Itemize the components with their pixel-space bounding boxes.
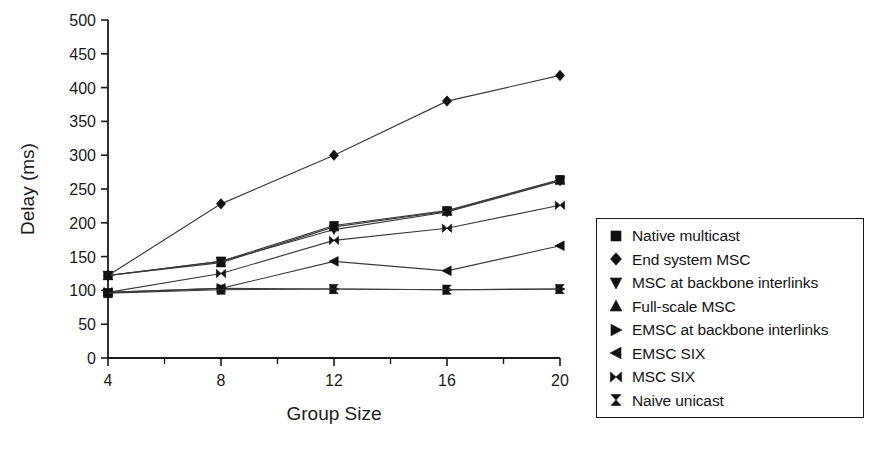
series-line	[108, 75, 560, 275]
x-axis-tick-label: 12	[325, 372, 343, 389]
data-point-marker-triangle-left	[442, 266, 451, 276]
triangle-left-marker-icon	[607, 344, 625, 362]
data-point-marker-bowtie	[442, 224, 451, 232]
diamond-marker-icon	[607, 250, 625, 268]
data-point-marker-bowtie	[216, 269, 225, 277]
chart-plot-area: 050100150200250300350400450500 48121620 …	[0, 0, 600, 458]
legend-item: MSC at backbone interlinks	[597, 271, 863, 295]
delay-vs-group-size-line-chart: 050100150200250300350400450500 48121620 …	[0, 0, 600, 458]
legend-item: MSC SIX	[597, 365, 863, 389]
x-axis-title: Group Size	[286, 403, 381, 424]
x-axis-tick-label: 20	[551, 372, 569, 389]
series-line	[108, 205, 560, 292]
triangle-down-marker-icon	[607, 274, 625, 292]
y-axis-tick-label: 150	[69, 249, 96, 266]
y-axis-tick-label: 350	[69, 113, 96, 130]
chart-screenshot: 050100150200250300350400450500 48121620 …	[0, 0, 877, 458]
y-axis-tick-label: 50	[78, 316, 96, 333]
data-point-marker-triangle-left	[555, 241, 564, 251]
data-point-marker-diamond	[329, 150, 338, 161]
y-axis-tick-label: 300	[69, 147, 96, 164]
legend-item-label: End system MSC	[632, 251, 750, 268]
y-axis-tick-label: 450	[69, 46, 96, 63]
legend-item-label: MSC at backbone interlinks	[632, 274, 818, 291]
legend-item-label: EMSC at backbone interlinks	[632, 321, 828, 338]
bowtie-marker-icon	[607, 368, 625, 386]
data-point-marker-diamond	[442, 96, 451, 107]
triangle-up-marker-icon	[607, 297, 625, 315]
legend-item: Full-scale MSC	[597, 295, 863, 319]
square-marker-icon	[607, 227, 625, 245]
legend-item: Naive unicast	[597, 389, 863, 413]
y-axis-tick-label: 0	[87, 350, 96, 367]
data-point-marker-diamond	[216, 199, 225, 210]
legend-item-label: MSC SIX	[632, 368, 695, 385]
series-msc-six	[103, 201, 564, 297]
legend-item-label: Native multicast	[632, 227, 740, 244]
data-point-marker-bowtie	[329, 236, 338, 244]
y-axis: 050100150200250300350400450500	[69, 12, 108, 367]
y-axis-title: Delay (ms)	[17, 143, 38, 235]
data-point-marker-triangle-left	[329, 257, 338, 267]
series-end-system-msc	[103, 70, 564, 281]
triangle-right-marker-icon	[607, 321, 625, 339]
legend-item: Native multicast	[597, 224, 863, 248]
y-axis-tick-label: 200	[69, 215, 96, 232]
y-axis-tick-label: 100	[69, 282, 96, 299]
hourglass-marker-icon	[607, 391, 625, 409]
legend-item-label: Full-scale MSC	[632, 298, 736, 315]
y-axis-tick-label: 400	[69, 80, 96, 97]
legend-item: End system MSC	[597, 248, 863, 272]
series-naive-unicast	[104, 284, 564, 297]
y-axis-tick-label: 500	[69, 12, 96, 29]
x-axis: 48121620	[104, 358, 569, 389]
legend-item-label: EMSC SIX	[632, 345, 705, 362]
x-axis-tick-label: 8	[217, 372, 226, 389]
legend-item: EMSC SIX	[597, 342, 863, 366]
data-point-marker-bowtie	[555, 201, 564, 209]
x-axis-tick-label: 4	[104, 372, 113, 389]
legend-item: EMSC at backbone interlinks	[597, 318, 863, 342]
chart-legend: Native multicastEnd system MSCMSC at bac…	[596, 218, 864, 418]
x-axis-tick-label: 16	[438, 372, 456, 389]
data-point-marker-diamond	[555, 70, 564, 81]
series-lines	[103, 70, 565, 298]
legend-item-label: Naive unicast	[632, 392, 724, 409]
y-axis-tick-label: 250	[69, 181, 96, 198]
